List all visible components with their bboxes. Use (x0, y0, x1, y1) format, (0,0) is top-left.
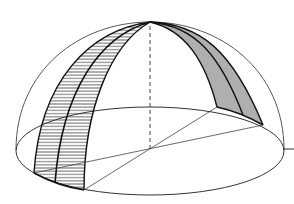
hemisphere-diagram: Hemisphere with two shaded meridian band… (0, 0, 294, 204)
right-band (150, 22, 263, 125)
left-band (34, 22, 150, 190)
hemisphere-drawing (0, 0, 294, 204)
